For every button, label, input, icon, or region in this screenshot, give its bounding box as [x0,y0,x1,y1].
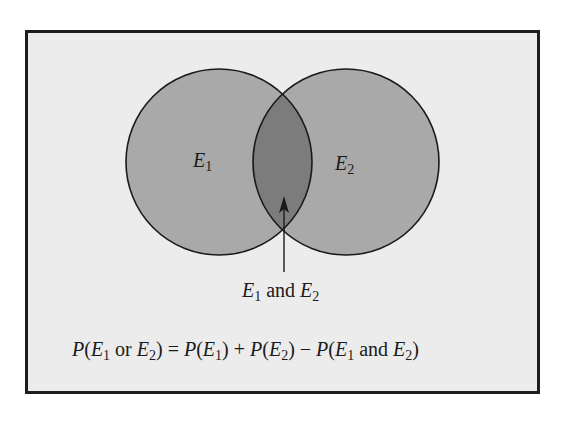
intersection-label: E1 and E2 [241,279,319,304]
addition-rule-formula: P(E1 or E2) = P(E1) + P(E2) − P(E1 and E… [71,338,419,363]
venn-diagram: E1 E2 E1 and E2 P(E1 or E2) = P(E1) + P(… [0,0,565,421]
